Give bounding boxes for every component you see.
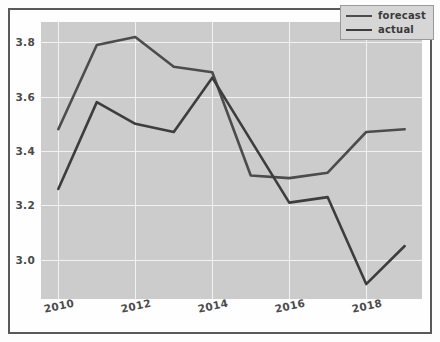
x-tick-label: 2012 xyxy=(120,297,152,315)
y-tick-label: 3.6 xyxy=(15,91,35,103)
x-tick-label: 2010 xyxy=(43,297,75,315)
series-lines xyxy=(41,22,422,299)
y-tick-label: 3.4 xyxy=(15,145,35,157)
series-line-actual xyxy=(58,78,404,284)
legend-line-swatch-actual xyxy=(346,29,372,31)
plot-wrapper: 3.03.23.43.63.8 20102012201420162018 for… xyxy=(0,0,440,342)
plot-area xyxy=(41,22,422,299)
x-tick-label: 2016 xyxy=(274,297,306,315)
y-tick-label: 3.0 xyxy=(15,254,35,266)
y-tick-label: 3.2 xyxy=(15,199,35,211)
x-tick-label: 2018 xyxy=(351,297,383,315)
legend-item-forecast[interactable]: forecast xyxy=(346,10,426,21)
legend-label-forecast: forecast xyxy=(378,10,426,21)
chart-figure: 3.03.23.43.63.8 20102012201420162018 for… xyxy=(0,0,440,342)
legend-label-actual: actual xyxy=(378,24,414,35)
y-axis-tick-labels: 3.03.23.43.63.8 xyxy=(0,22,35,299)
chart-legend: forecastactual xyxy=(340,5,434,40)
y-tick-label: 3.8 xyxy=(15,36,35,48)
x-tick-label: 2014 xyxy=(197,297,229,315)
legend-item-actual[interactable]: actual xyxy=(346,24,426,35)
legend-line-swatch-forecast xyxy=(346,15,372,17)
x-axis-tick-labels: 20102012201420162018 xyxy=(41,299,422,339)
